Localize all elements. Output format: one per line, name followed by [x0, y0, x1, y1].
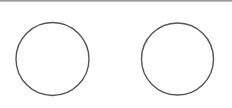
- drawing-canvas: [0, 0, 232, 108]
- right-circle: [142, 23, 214, 95]
- left-circle: [16, 23, 89, 96]
